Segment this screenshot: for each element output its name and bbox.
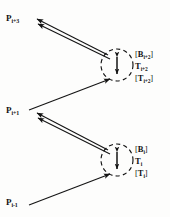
node-label-p-i-plus-3: Pi+3	[6, 14, 19, 24]
ray-bottom-inbound	[29, 174, 110, 205]
bracket-close: ]	[145, 168, 148, 178]
ray-lower-outbound-b	[38, 118, 110, 154]
matrix-label-tbracket-upper: [Ti+2]	[135, 74, 153, 86]
node-label-subscript: i-1	[12, 202, 18, 208]
bracket-close: ]	[150, 73, 153, 83]
matrix-subscript: i+2	[141, 66, 148, 72]
node-label-p-i-plus-1: Pi+1	[6, 106, 19, 116]
node-label-subscript: i+1	[12, 110, 20, 116]
ray-lower-outbound-a	[37, 113, 108, 150]
bracket-close: ]	[145, 144, 148, 154]
ray-upper-outbound-a	[37, 19, 108, 55]
matrix-label-group-upper: [Bi+2] Ti+2 [Ti+2]	[135, 50, 153, 86]
matrix-label-tbracket-lower: [Ti]	[135, 169, 148, 181]
matrix-subscript: i	[141, 161, 142, 167]
diagram-canvas	[0, 0, 170, 217]
ray-propagation-diagram: Pi+3 Pi+1 Pi-1 [Bi+2] Ti+2 [Ti+2] [Bi] T…	[0, 0, 170, 217]
node-label-subscript: i+3	[12, 18, 20, 24]
ray-mid-inbound	[29, 79, 110, 110]
ray-upper-outbound-b	[38, 24, 110, 59]
bracket-close: ]	[150, 49, 153, 59]
node-label-p-i-minus-1: Pi-1	[6, 198, 18, 208]
matrix-label-group-lower: [Bi] Ti [Ti]	[135, 145, 148, 181]
